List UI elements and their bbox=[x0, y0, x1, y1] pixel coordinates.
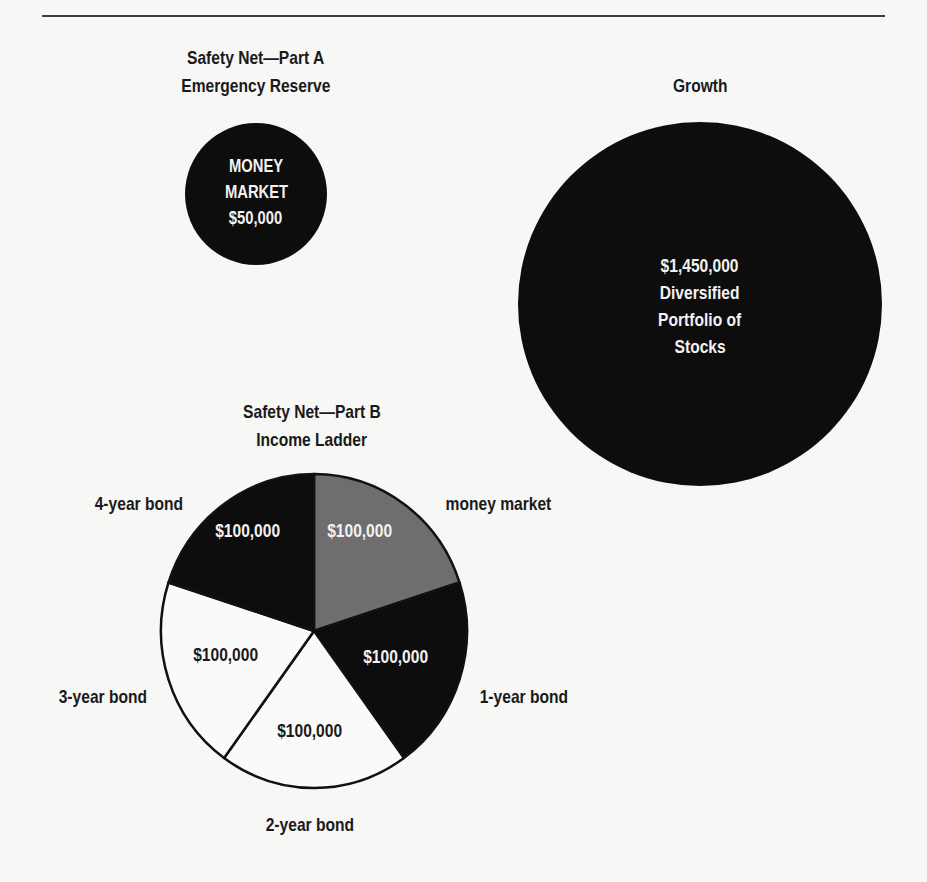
growth-label-line1: $1,450,000 bbox=[661, 252, 739, 279]
growth-label-line3: Portfolio of bbox=[658, 306, 741, 333]
emergency-reserve-label-line1: MONEY bbox=[229, 153, 283, 179]
emergency-reserve-title: Safety Net—Part A Emergency Reserve bbox=[106, 44, 406, 100]
pie-value-2-year-bond: $100,000 bbox=[255, 717, 365, 745]
pie-label-3-year-bond: 3-year bond bbox=[41, 683, 165, 711]
pie-label-4-year-bond: 4-year bond bbox=[77, 490, 201, 518]
diagram-shapes bbox=[0, 0, 927, 882]
pie-label-2-year-bond: 2-year bond bbox=[248, 811, 372, 839]
emergency-reserve-label: MONEY MARKET $50,000 bbox=[156, 153, 356, 231]
portfolio-diagram: Safety Net—Part A Emergency Reserve MONE… bbox=[0, 0, 927, 882]
growth-title: Growth bbox=[600, 72, 800, 100]
growth-label: $1,450,000 Diversified Portfolio of Stoc… bbox=[580, 252, 820, 360]
pie-value-1-year-bond: $100,000 bbox=[341, 643, 451, 671]
emergency-reserve-title-line1: Safety Net—Part A bbox=[187, 44, 324, 72]
growth-label-line2: Diversified bbox=[660, 279, 740, 306]
pie-value-4-year-bond: $100,000 bbox=[193, 517, 303, 545]
pie-label-1-year-bond: 1-year bond bbox=[462, 683, 586, 711]
income-ladder-title: Safety Net—Part B Income Ladder bbox=[162, 398, 462, 454]
pie-value-money-market: $100,000 bbox=[305, 517, 415, 545]
income-ladder-title-line1: Safety Net—Part B bbox=[243, 398, 381, 426]
emergency-reserve-label-line3: $50,000 bbox=[229, 205, 282, 231]
pie-value-3-year-bond: $100,000 bbox=[171, 641, 281, 669]
income-ladder-title-line2: Income Ladder bbox=[257, 426, 368, 454]
pie-label-money-market: money market bbox=[428, 490, 568, 518]
growth-label-line4: Stocks bbox=[674, 333, 725, 360]
emergency-reserve-title-line2: Emergency Reserve bbox=[182, 72, 331, 100]
emergency-reserve-label-line2: MARKET bbox=[224, 179, 287, 205]
